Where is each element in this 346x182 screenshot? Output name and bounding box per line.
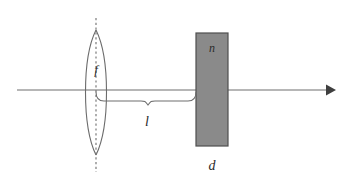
- figure-background: [0, 0, 346, 182]
- label-distance: l: [145, 114, 149, 129]
- label-thickness: d: [209, 158, 217, 173]
- optics-figure: f l n d: [0, 0, 346, 182]
- figure-canvas: f l n d: [0, 0, 346, 182]
- label-refractive-index: n: [209, 41, 215, 55]
